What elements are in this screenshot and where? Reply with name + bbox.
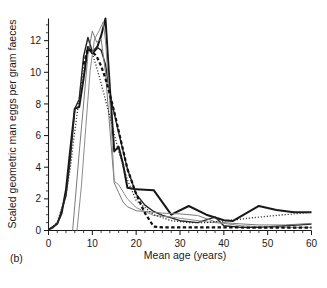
series-line-curve-2-solid-dark [49,37,312,229]
y-tick-label: 12 [30,35,42,46]
x-tick-label: 40 [218,238,230,249]
y-tick-label: 6 [35,130,41,141]
y-tick-label: 8 [35,99,41,110]
x-tick-label: 0 [46,238,52,249]
y-tick-label: 4 [35,162,41,173]
series-line-curve-6-thick-dashed [84,49,312,228]
x-tick-label: 30 [174,238,186,249]
x-tick-label: 20 [131,238,143,249]
y-tick-label: 0 [35,225,41,236]
y-tick-label: 2 [35,193,41,204]
series-line-curve-5-dotted [49,50,312,230]
x-tick-label: 50 [262,238,274,249]
x-tick-label: 60 [306,238,318,249]
y-tick-label: 10 [30,67,42,78]
panel-label: (b) [10,252,23,264]
series-group [49,19,312,231]
figure-panel: 0102030405060024681012 Scaled geometric … [0,0,327,288]
y-axis-title: Scaled geometric man eggs per gram faece… [6,20,18,229]
x-axis-title: Mean age (years) [144,249,226,261]
chart-canvas: 0102030405060024681012 Scaled geometric … [0,0,327,288]
x-tick-label: 10 [87,238,99,249]
